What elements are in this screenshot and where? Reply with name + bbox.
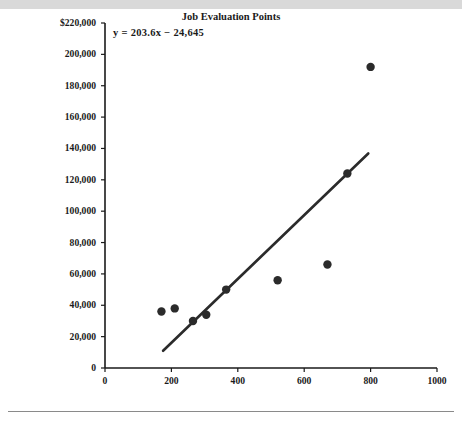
y-tick-label: 160,000 bbox=[20, 111, 96, 122]
x-tick-label: 400 bbox=[218, 375, 258, 386]
regression-equation-label: y = 203.6x − 24,645 bbox=[113, 27, 204, 38]
data-point bbox=[171, 304, 179, 312]
x-tick-label: 1000 bbox=[417, 375, 457, 386]
y-tick-label: 120,000 bbox=[20, 174, 96, 185]
y-tick-label: 40,000 bbox=[20, 299, 96, 310]
data-point bbox=[273, 276, 281, 284]
y-tick-label: 80,000 bbox=[20, 237, 96, 248]
y-tick-label: 20,000 bbox=[20, 331, 96, 342]
axes-group bbox=[101, 23, 437, 372]
scatter-chart-figure: y = 203.6x − 24,645 Dollars Job Evaluati… bbox=[0, 0, 462, 437]
data-points-group bbox=[157, 63, 375, 325]
data-point bbox=[323, 260, 331, 268]
y-tick-label: 200,000 bbox=[20, 48, 96, 59]
y-tick-label: 60,000 bbox=[20, 268, 96, 279]
y-tick-label: 180,000 bbox=[20, 80, 96, 91]
data-point bbox=[202, 310, 210, 318]
footer-rule bbox=[8, 411, 454, 412]
data-point bbox=[343, 169, 351, 177]
x-tick-label: 0 bbox=[85, 375, 125, 386]
x-tick-label: 600 bbox=[284, 375, 324, 386]
data-point bbox=[157, 307, 165, 315]
y-tick-label: 100,000 bbox=[20, 205, 96, 216]
x-tick-label: 200 bbox=[151, 375, 191, 386]
y-tick-label: 0 bbox=[20, 362, 96, 373]
y-tick-label: 140,000 bbox=[20, 142, 96, 153]
data-point bbox=[189, 317, 197, 325]
y-tick-label: $220,000 bbox=[20, 17, 96, 28]
data-point bbox=[366, 63, 374, 71]
data-point bbox=[222, 285, 230, 293]
x-tick-label: 800 bbox=[351, 375, 391, 386]
